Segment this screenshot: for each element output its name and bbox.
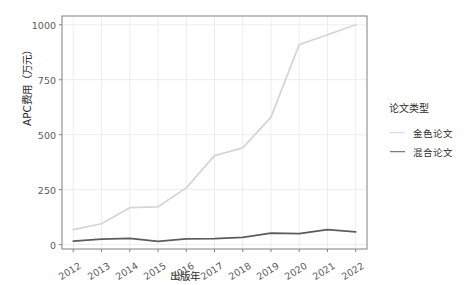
chart-container: APC费用（万元） 出版年 02505007501000 20122013201…: [0, 0, 471, 285]
legend-entries: 金色论文混合论文: [389, 124, 469, 160]
legend-item[interactable]: 金色论文: [389, 124, 469, 141]
legend-line-icon: [389, 127, 406, 139]
legend-item-label: 混合论文: [413, 145, 453, 159]
legend: 论文类型 金色论文混合论文: [389, 100, 469, 162]
legend-title: 论文类型: [389, 100, 469, 115]
legend-line-icon: [389, 146, 406, 158]
legend-item-label: 金色论文: [413, 126, 453, 140]
legend-item[interactable]: 混合论文: [389, 143, 469, 160]
